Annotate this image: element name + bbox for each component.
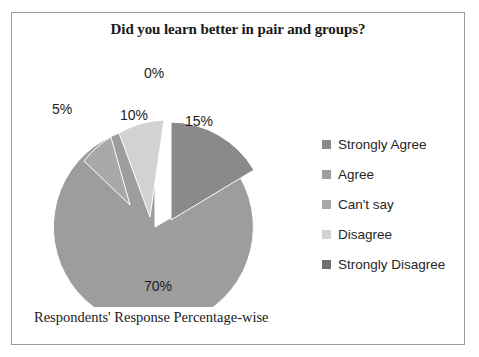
legend-item-cant-say[interactable]: Can't say [322,191,472,217]
pie-label-cant-say: 5% [52,101,72,117]
legend-label: Strongly Disagree [338,257,445,272]
legend-item-strongly-disagree[interactable]: Strongly Disagree [322,251,472,277]
chart-caption: Respondents' Response Percentage-wise [34,309,269,326]
pie-svg [22,45,302,307]
legend-item-agree[interactable]: Agree [322,161,472,187]
pie-label-strongly-disagree: 0% [144,65,164,81]
legend-swatch-icon [322,140,331,149]
legend-label: Can't say [338,197,394,212]
legend-swatch-icon [322,200,331,209]
legend-swatch-icon [322,260,331,269]
chart-frame: Did you learn better in pair and groups?… [11,12,465,345]
pie-chart: 0% 5% 10% 15% 70% [22,45,302,307]
legend-swatch-icon [322,170,331,179]
pie-label-agree: 70% [144,278,172,294]
chart-legend: Strongly Agree Agree Can't say Disagree … [322,131,472,281]
legend-swatch-icon [322,230,331,239]
legend-label: Disagree [338,227,392,242]
pie-label-strongly-agree: 15% [185,113,213,129]
legend-item-disagree[interactable]: Disagree [322,221,472,247]
legend-label: Strongly Agree [338,137,427,152]
legend-item-strongly-agree[interactable]: Strongly Agree [322,131,472,157]
pie-label-disagree: 10% [120,107,148,123]
legend-label: Agree [338,167,374,182]
chart-title: Did you learn better in pair and groups? [12,21,464,38]
